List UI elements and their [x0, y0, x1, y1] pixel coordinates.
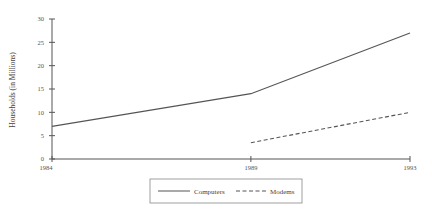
y-tick-label: 0 [41, 155, 44, 162]
series-modems [251, 112, 410, 142]
y-tick-label: 5 [41, 132, 44, 139]
y-tick-label: 25 [38, 39, 45, 46]
series-group [52, 33, 410, 143]
legend-label-computers: Computers [194, 188, 225, 196]
y-axis: 051015202530 [38, 15, 56, 162]
x-tick-label: 1993 [404, 164, 417, 171]
legend: Computers Modems [150, 179, 302, 203]
y-tick-label: 10 [38, 109, 45, 116]
y-tick-label: 15 [38, 85, 45, 92]
x-tick-label: 1984 [40, 164, 54, 171]
x-tick-label: 1989 [244, 164, 257, 171]
line-chart: 051015202530 198419891993 Households (in… [0, 0, 432, 215]
series-computers [52, 33, 410, 126]
legend-label-modems: Modems [270, 188, 295, 196]
y-tick-label: 30 [38, 15, 45, 22]
y-axis-title: Households (in Millions) [8, 52, 17, 128]
x-axis: 198419891993 [40, 156, 417, 171]
y-tick-label: 20 [38, 62, 45, 69]
